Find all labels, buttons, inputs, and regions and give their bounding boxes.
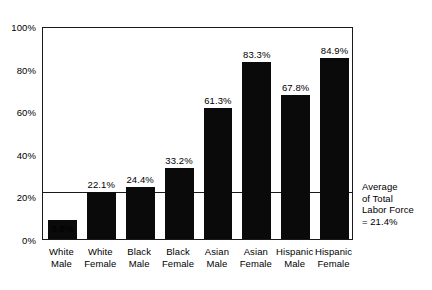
bar <box>281 95 310 239</box>
bar-value-label: 84.9% <box>321 45 348 56</box>
x-axis-category-label: BlackFemale <box>159 246 198 269</box>
bar <box>165 168 194 239</box>
x-axis-category-line: Asian <box>198 246 237 258</box>
bar-slot: 24.4% <box>121 26 160 239</box>
bar <box>204 108 233 239</box>
x-axis-category-line: White <box>42 246 81 258</box>
y-axis-tick-label: 20% <box>17 192 36 203</box>
x-axis-category-label: AsianMale <box>198 246 237 269</box>
x-axis-category-line: Black <box>159 246 198 258</box>
x-axis-category-label: AsianFemale <box>236 246 275 269</box>
x-axis-category-line: Male <box>198 258 237 270</box>
average-annotation: Average of Total Labor Force = 21.4% <box>362 181 432 227</box>
bar <box>320 58 349 239</box>
x-axis-category-label: HispanicMale <box>275 246 314 269</box>
annotation-line-2: of Total <box>362 193 432 205</box>
x-axis-category-line: Male <box>120 258 159 270</box>
bar <box>126 187 155 239</box>
x-axis-category-line: Female <box>314 258 353 270</box>
x-axis-category-line: Hispanic <box>314 246 353 258</box>
x-axis-category-line: Male <box>275 258 314 270</box>
x-axis-category-line: Female <box>236 258 275 270</box>
y-axis-tick-label: 0% <box>22 235 36 246</box>
plot-area: 8.8%22.1%24.4%33.2%61.3%83.3%67.8%84.9% <box>42 27 353 240</box>
bar-value-label: 24.4% <box>126 174 153 185</box>
bar-slot: 8.8% <box>43 26 82 239</box>
bar-value-label: 83.3% <box>243 49 270 60</box>
y-axis-tick-label: 80% <box>17 64 36 75</box>
y-axis-tick-label: 60% <box>17 107 36 118</box>
bar <box>242 62 271 239</box>
y-axis: 0%20%40%60%80%100% <box>0 27 40 240</box>
x-axis-category-line: Female <box>159 258 198 270</box>
x-axis-category-label: BlackMale <box>120 246 159 269</box>
y-axis-tick-label: 100% <box>11 22 36 33</box>
annotation-line-4: = 21.4% <box>362 216 432 228</box>
bar <box>87 192 116 239</box>
annotation-line-3: Labor Force <box>362 204 432 216</box>
y-axis-tick-label: 40% <box>17 149 36 160</box>
bar-chart-figure: 0%20%40%60%80%100% 8.8%22.1%24.4%33.2%61… <box>0 0 432 290</box>
bar-value-label: 61.3% <box>204 95 231 106</box>
x-axis-category-label: HispanicFemale <box>314 246 353 269</box>
bar-value-label: 67.8% <box>282 82 309 93</box>
x-axis-category-line: Female <box>81 258 120 270</box>
x-axis-category-line: Hispanic <box>275 246 314 258</box>
annotation-line-1: Average <box>362 181 432 193</box>
x-axis-category-label: WhiteMale <box>42 246 81 269</box>
bar-slot: 22.1% <box>82 26 121 239</box>
bar-value-label: 22.1% <box>88 179 115 190</box>
bar-slot: 83.3% <box>237 26 276 239</box>
bar-slot: 33.2% <box>160 26 199 239</box>
x-axis-category-line: Male <box>42 258 81 270</box>
bar-series: 8.8%22.1%24.4%33.2%61.3%83.3%67.8%84.9% <box>43 28 352 239</box>
bar-slot: 61.3% <box>199 26 238 239</box>
bar-value-label: 33.2% <box>165 155 192 166</box>
bar-value-label: 8.8% <box>51 223 73 234</box>
x-axis-category-line: Asian <box>236 246 275 258</box>
bar-slot: 67.8% <box>276 26 315 239</box>
x-axis-category-line: Black <box>120 246 159 258</box>
x-axis: WhiteMaleWhiteFemaleBlackMaleBlackFemale… <box>42 246 353 280</box>
bar-slot: 84.9% <box>315 26 354 239</box>
x-axis-category-line: White <box>81 246 120 258</box>
x-axis-category-label: WhiteFemale <box>81 246 120 269</box>
